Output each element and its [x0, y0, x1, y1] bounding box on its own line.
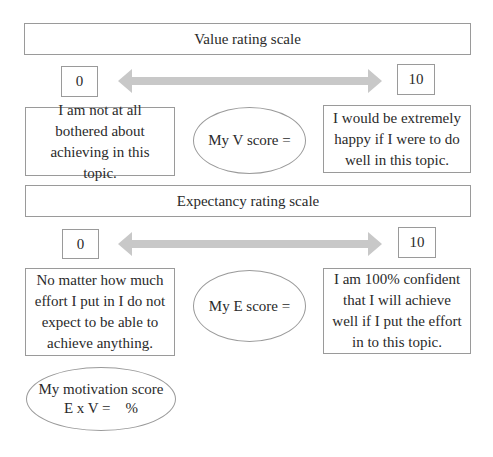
motivation-formula: E x V = % — [64, 399, 138, 418]
value-max-label: 10 — [409, 71, 424, 88]
value-double-arrow-icon — [116, 66, 384, 96]
value-scale-title: Value rating scale — [24, 23, 471, 55]
expectancy-double-arrow-icon — [116, 229, 384, 259]
expectancy-min-label: 0 — [77, 236, 85, 253]
expectancy-score-ellipse[interactable]: My E score = — [193, 270, 306, 342]
value-min-description: I am not at all bothered about achieving… — [32, 100, 168, 184]
expectancy-scale-title-text: Expectancy rating scale — [177, 193, 319, 210]
value-max-box: 10 — [397, 64, 435, 95]
expectancy-score-label: My E score = — [209, 297, 290, 316]
value-score-ellipse[interactable]: My V score = — [193, 107, 306, 174]
value-min-description-box: I am not at all bothered about achieving… — [25, 107, 175, 176]
value-min-box: 0 — [61, 66, 98, 97]
value-max-description-box: I would be extremely happy if I were to … — [323, 105, 471, 173]
value-max-description: I would be extremely happy if I were to … — [330, 108, 464, 171]
expectancy-max-description-box: I am 100% confident that I will achieve … — [323, 268, 471, 354]
motivation-score-label: My motivation score — [39, 380, 164, 399]
expectancy-max-label: 10 — [410, 234, 425, 251]
value-score-label: My V score = — [208, 131, 291, 150]
motivation-score-ellipse[interactable]: My motivation score E x V = % — [26, 367, 176, 431]
expectancy-max-description: I am 100% confident that I will achieve … — [330, 269, 464, 353]
expectancy-min-box: 0 — [62, 229, 99, 259]
value-scale-title-text: Value rating scale — [194, 31, 301, 48]
expectancy-scale-title: Expectancy rating scale — [25, 185, 471, 217]
expectancy-min-description: No matter how much effort I put in I do … — [32, 270, 168, 354]
value-min-label: 0 — [76, 73, 84, 90]
expectancy-max-box: 10 — [398, 227, 436, 258]
expectancy-min-description-box: No matter how much effort I put in I do … — [25, 268, 175, 356]
